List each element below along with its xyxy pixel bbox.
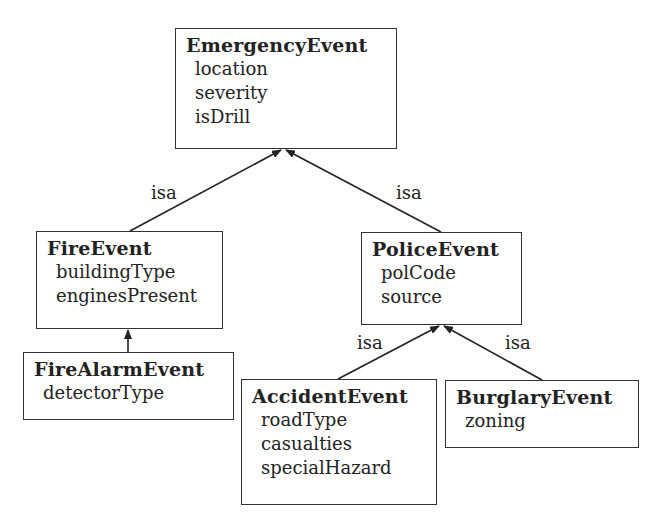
attribute: roadType (252, 408, 436, 432)
class-box-emergency-event: EmergencyEvent location severity isDrill (175, 28, 397, 149)
class-name: FireAlarmEvent (34, 357, 233, 381)
class-name: FireEvent (47, 236, 222, 260)
class-name: EmergencyEvent (186, 33, 396, 57)
isa-label-police: isa (396, 183, 422, 203)
attribute: zoning (456, 409, 638, 433)
attribute: location (186, 57, 396, 81)
isa-label-accident: isa (357, 333, 383, 353)
attribute: buildingType (47, 260, 222, 284)
class-name: BurglaryEvent (456, 385, 638, 409)
class-name: PoliceEvent (372, 237, 521, 261)
edge-accident-police (338, 326, 439, 379)
attribute: severity (186, 81, 396, 105)
class-box-fire-event: FireEvent buildingType enginesPresent (36, 231, 223, 329)
attribute: detectorType (34, 381, 233, 405)
isa-label-fire: isa (151, 183, 177, 203)
isa-label-burglary: isa (505, 333, 531, 353)
attribute: casualties (252, 432, 436, 456)
class-box-accident-event: AccidentEvent roadType casualties specia… (241, 379, 437, 505)
class-box-fire-alarm-event: FireAlarmEvent detectorType (23, 352, 234, 420)
class-box-burglary-event: BurglaryEvent zoning (445, 380, 639, 448)
class-name: AccidentEvent (252, 384, 436, 408)
attribute: source (372, 285, 521, 309)
class-box-police-event: PoliceEvent polCode source (361, 232, 522, 325)
attribute: isDrill (186, 105, 396, 129)
attribute: specialHazard (252, 456, 436, 480)
attribute: enginesPresent (47, 284, 222, 308)
class-hierarchy-diagram: isa isa isa isa EmergencyEvent location … (0, 0, 662, 529)
attribute: polCode (372, 261, 521, 285)
